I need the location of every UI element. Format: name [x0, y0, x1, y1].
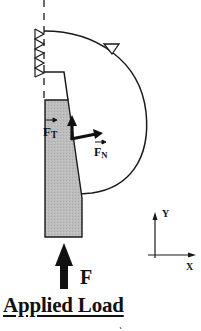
tangential-force-label: FT [43, 125, 57, 141]
loading-block [45, 100, 82, 237]
body-neck [44, 72, 68, 100]
applied-force-label: F [80, 267, 92, 287]
normal-force-label: FN [94, 146, 108, 160]
mechanics-diagram [0, 0, 201, 331]
x-axis-label: X [186, 262, 193, 272]
roller-support-icon [104, 44, 119, 54]
normal-force-arrow [71, 129, 103, 139]
stray-mark [120, 327, 121, 329]
fixed-support-icon [35, 29, 44, 77]
y-axis-label: Y [162, 209, 169, 219]
diagram-title: Applied Load [3, 293, 124, 318]
applied-load-arrow-icon [55, 243, 73, 289]
xy-axes-icon [148, 212, 196, 258]
